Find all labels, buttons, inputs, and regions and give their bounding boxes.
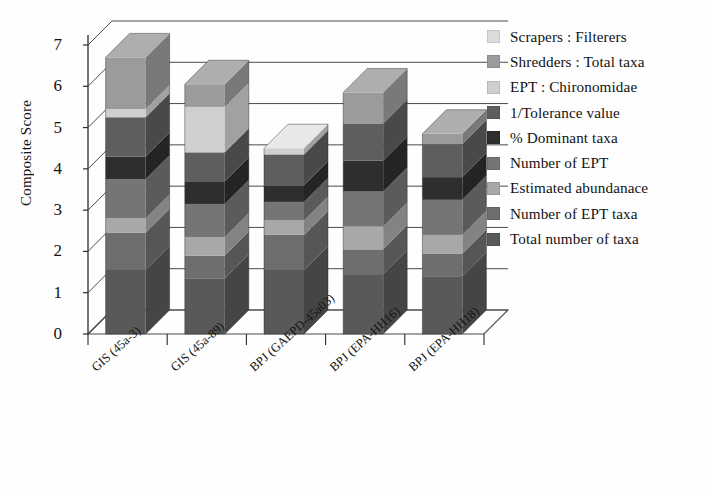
legend-swatch-icon (487, 233, 500, 246)
legend-item[interactable]: Number of EPT taxa (487, 201, 648, 226)
bar-segment (185, 181, 225, 204)
bar-segment (106, 218, 146, 232)
bar-segment (106, 233, 146, 270)
legend-item[interactable]: 1/Tolerance value (487, 100, 648, 125)
legend-item[interactable]: Estimated abundanace (487, 176, 648, 201)
bar-segment (343, 249, 383, 274)
legend-item[interactable]: Shredders : Total taxa (487, 49, 648, 74)
bar-segment (185, 84, 225, 107)
bar-segment (422, 235, 462, 254)
legend-swatch-icon (487, 131, 500, 144)
bar-segment (106, 270, 146, 334)
legend-item[interactable]: % Dominant taxa (487, 125, 648, 150)
bar-segment (264, 220, 304, 234)
bar-segment (106, 179, 146, 218)
bar-segment (185, 256, 225, 279)
bar-segment (185, 237, 225, 256)
bar-segment (264, 202, 304, 221)
legend-item[interactable]: Number of EPT (487, 150, 648, 175)
bar-segment (264, 235, 304, 270)
legend-swatch-icon (487, 106, 500, 119)
bar-column (422, 110, 486, 334)
legend-label: Shredders : Total taxa (510, 53, 645, 71)
legend-label: EPT : Chironomidae (510, 78, 637, 96)
legend-item[interactable]: Total number of taxa (487, 226, 648, 251)
legend-label: Total number of taxa (510, 230, 639, 248)
legend-swatch-icon (487, 207, 500, 220)
bar-segment (185, 107, 225, 152)
legend-label: % Dominant taxa (510, 129, 618, 147)
bar-segment (185, 204, 225, 237)
legend-item[interactable]: EPT : Chironomidae (487, 75, 648, 100)
legend-swatch-icon (487, 30, 500, 43)
bar-segment (343, 227, 383, 250)
bar-column (343, 68, 407, 334)
legend-label: Estimated abundanace (510, 179, 648, 197)
bar-segment (343, 92, 383, 123)
bar-segment (264, 185, 304, 202)
legend-label: 1/Tolerance value (510, 104, 620, 122)
bar-segment (343, 161, 383, 192)
bar-segment (106, 57, 146, 109)
legend-swatch-icon (487, 55, 500, 68)
legend-swatch-icon (487, 157, 500, 170)
bar-segment (422, 177, 462, 200)
legend-swatch-icon (487, 182, 500, 195)
legend-label: Scrapers : Filterers (510, 28, 627, 46)
bar-segment (264, 154, 304, 185)
chart-legend: Scrapers : FilterersShredders : Total ta… (487, 24, 648, 252)
legend-label: Number of EPT taxa (510, 205, 638, 223)
bar-column (106, 33, 170, 334)
bar-column (185, 60, 249, 334)
bar-segment (264, 148, 304, 154)
legend-label: Number of EPT (510, 154, 608, 172)
bar-segment (422, 253, 462, 276)
stacked-bar-chart: Composite Score 76543210 GIS (45a-3)GIS … (0, 0, 710, 494)
bar-segment (422, 134, 462, 144)
bar-segment (422, 144, 462, 177)
bar-segment (422, 200, 462, 235)
legend-swatch-icon (487, 81, 500, 94)
bar-segment (185, 152, 225, 181)
bar-segment (106, 117, 146, 156)
bar-segment (106, 109, 146, 117)
bar-segment (343, 123, 383, 160)
legend-item[interactable]: Scrapers : Filterers (487, 24, 648, 49)
bar-segment (343, 192, 383, 227)
bar-segment (106, 156, 146, 179)
